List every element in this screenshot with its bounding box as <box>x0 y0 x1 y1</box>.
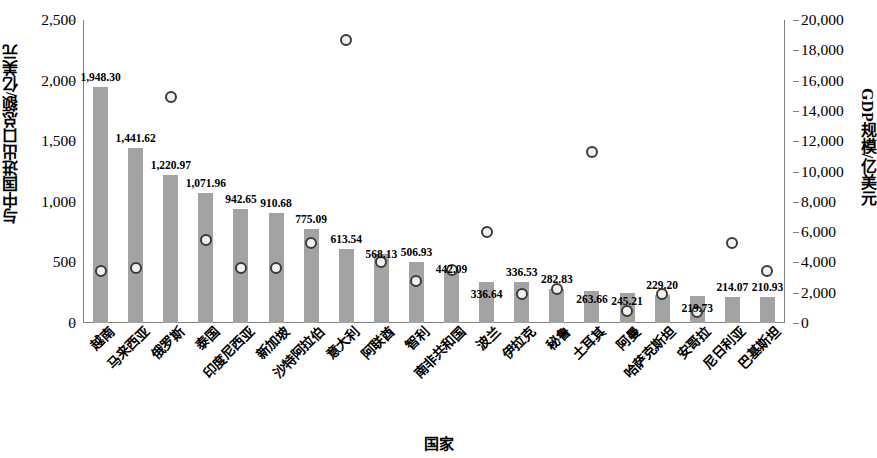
y-axis-left-tick-mark <box>70 262 76 263</box>
bar-value-label: 219.73 <box>681 303 713 315</box>
bar-value-label: 263.66 <box>576 294 608 306</box>
y-axis-right-tick-mark <box>793 293 799 294</box>
bar-value-label: 506.93 <box>401 247 433 259</box>
bar-value-label: 1,948.30 <box>80 72 120 84</box>
bar[interactable] <box>409 262 424 323</box>
x-axis-category-labels: 越南马来西亚俄罗斯泰国印度尼西亚新加坡沙特阿拉伯意大利阿联酋智利南非共和国波兰伊… <box>83 325 785 435</box>
y-axis-right-tick-label: 0 <box>801 315 809 331</box>
bar-value-label: 1,071.96 <box>186 178 226 190</box>
y-axis-right-tick-mark <box>793 172 799 173</box>
y-axis-left-tick-label: 500 <box>6 255 76 271</box>
scatter-point[interactable] <box>270 262 282 274</box>
y-axis-right-tick-label: 8,000 <box>801 194 836 210</box>
y-axis-right-tick-mark <box>793 232 799 233</box>
bar-value-label: 245.21 <box>611 296 643 308</box>
scatter-point[interactable] <box>165 91 177 103</box>
x-axis-tick-label: 阿曼 <box>615 325 643 353</box>
bar[interactable] <box>163 175 178 323</box>
x-axis-tick-label: 秘鲁 <box>544 325 572 353</box>
y-axis-left-tick-mark <box>70 20 76 21</box>
scatter-point[interactable] <box>481 226 493 238</box>
x-axis-tick-label: 泰国 <box>193 325 221 353</box>
x-axis-title: 国家 <box>0 432 877 453</box>
y-axis-right-tick-mark <box>793 81 799 82</box>
y-axis-left-tick-label: 2,500 <box>6 12 76 28</box>
bar-value-label: 229.20 <box>646 280 678 292</box>
y-axis-right-tick-mark <box>793 50 799 51</box>
bar-value-label: 942.65 <box>225 194 257 206</box>
y-axis-right-tick-mark <box>793 141 799 142</box>
bar-value-label: 214.07 <box>717 282 749 294</box>
scatter-point[interactable] <box>305 237 317 249</box>
scatter-point[interactable] <box>410 275 422 287</box>
scatter-point[interactable] <box>95 265 107 277</box>
x-axis-tick-label: 智利 <box>404 325 432 353</box>
bar[interactable] <box>198 193 213 323</box>
y-axis-right-ticks: 02,0004,0006,0008,00010,00012,00014,0001… <box>793 20 863 323</box>
bar[interactable] <box>760 297 775 323</box>
x-axis-tick-label: 意大利 <box>325 325 363 363</box>
bar-value-label: 568.13 <box>366 249 398 261</box>
bar[interactable] <box>93 87 108 323</box>
y-axis-left-ticks: 05001,0001,5002,0002,500 <box>0 20 76 323</box>
y-axis-right-tick-label: 14,000 <box>801 103 844 119</box>
y-axis-right-tick-label: 4,000 <box>801 255 836 271</box>
y-axis-right-tick-label: 18,000 <box>801 43 844 59</box>
y-axis-left-tick-mark <box>70 323 76 324</box>
y-axis-left-tick-label: 0 <box>6 315 76 331</box>
x-axis-tick-label: 越南 <box>88 325 116 353</box>
x-axis-tick-label: 俄罗斯 <box>149 325 187 363</box>
y-axis-right-tick-label: 6,000 <box>801 224 836 240</box>
y-axis-right-tick-mark <box>793 202 799 203</box>
y-axis-right-tick-label: 20,000 <box>801 12 844 28</box>
y-axis-left-tick-mark <box>70 202 76 203</box>
chart-container: 与中国进出口总额/亿美元 GDP规模/亿美元 05001,0001,5002,0… <box>0 0 877 458</box>
bar[interactable] <box>128 148 143 323</box>
y-axis-left-tick-mark <box>70 141 76 142</box>
y-axis-right-tick-mark <box>793 111 799 112</box>
bar-value-label: 282.83 <box>541 274 573 286</box>
x-axis-tick-label: 波兰 <box>474 325 502 353</box>
bar[interactable] <box>339 249 354 323</box>
y-axis-right-tick-mark <box>793 20 799 21</box>
scatter-point[interactable] <box>516 288 528 300</box>
scatter-point[interactable] <box>130 262 142 274</box>
bar-value-label: 210.93 <box>752 282 784 294</box>
bar-value-label: 1,220.97 <box>151 160 191 172</box>
bar-value-label: 442.09 <box>436 264 468 276</box>
plot-area: 1,948.301,441.621,220.971,071.96942.6591… <box>83 20 785 323</box>
bar-value-label: 613.54 <box>330 234 362 246</box>
y-axis-left-tick-label: 1,000 <box>6 194 76 210</box>
bar-value-label: 336.53 <box>506 267 538 279</box>
y-axis-right-tick-mark <box>793 262 799 263</box>
scatter-point[interactable] <box>726 237 738 249</box>
x-axis-tick-label: 土耳其 <box>570 325 608 363</box>
bar-value-label: 775.09 <box>295 214 327 226</box>
y-axis-left-tick-label: 1,500 <box>6 133 76 149</box>
bar[interactable] <box>725 297 740 323</box>
x-axis-tick-label: 伊拉克 <box>500 325 538 363</box>
y-axis-right-tick-label: 16,000 <box>801 73 844 89</box>
bar-value-label: 910.68 <box>260 198 292 210</box>
x-axis-tick-label: 阿联酋 <box>360 325 398 363</box>
bar-value-label: 1,441.62 <box>116 133 156 145</box>
y-axis-left-tick-mark <box>70 81 76 82</box>
y-axis-right-tick-label: 10,000 <box>801 164 844 180</box>
y-axis-left-tick-label: 2,000 <box>6 73 76 89</box>
bar-value-label: 336.64 <box>471 289 503 301</box>
y-axis-right-tick-label: 2,000 <box>801 285 836 301</box>
y-axis-right-tick-mark <box>793 323 799 324</box>
bar[interactable] <box>444 269 459 323</box>
scatter-point[interactable] <box>586 146 598 158</box>
y-axis-right-tick-label: 12,000 <box>801 133 844 149</box>
